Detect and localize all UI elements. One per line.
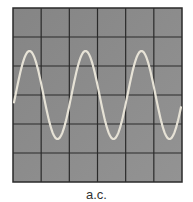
- oscilloscope-screen: [0, 0, 193, 202]
- caption-label: a.c.: [0, 187, 193, 202]
